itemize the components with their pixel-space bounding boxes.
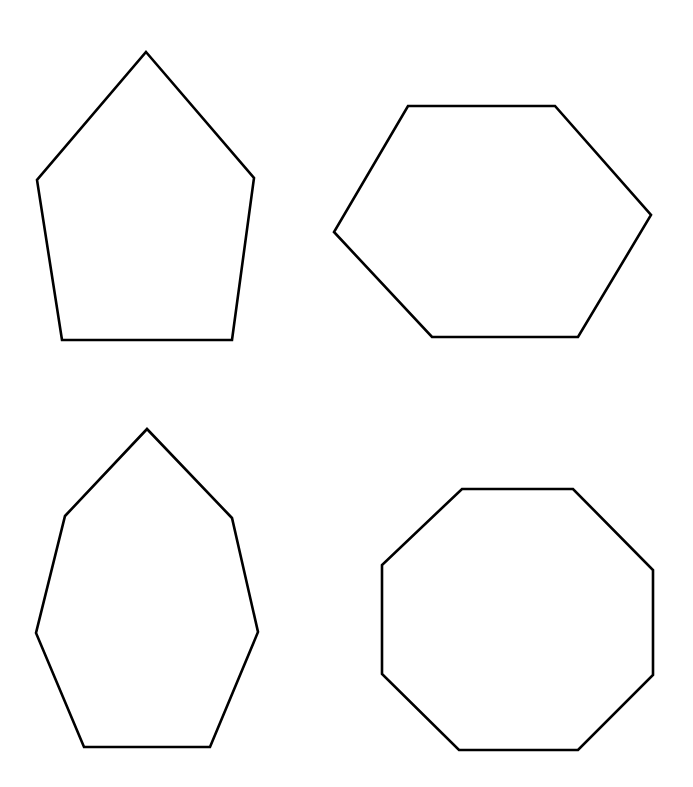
- octagon-shape: [382, 489, 653, 750]
- shapes-canvas: [0, 0, 693, 787]
- polygon-illustration: [0, 0, 693, 787]
